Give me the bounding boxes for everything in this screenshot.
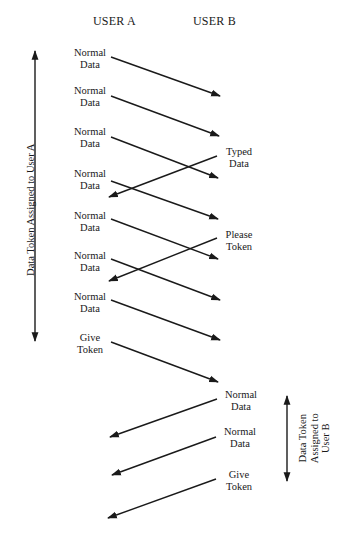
arrow-a-to-b-1 xyxy=(111,57,220,96)
arrow-b-to-a-5 xyxy=(108,479,216,518)
arrow-a-to-b-5 xyxy=(111,219,218,259)
user-a-message-5: NormalData xyxy=(60,210,120,233)
arrow-b-to-a-3 xyxy=(110,399,217,437)
user-b-message-2: NormalData xyxy=(210,426,270,449)
user-b-message-1: NormalData xyxy=(211,389,271,412)
arrow-b-to-a-2 xyxy=(109,238,217,281)
user-a-message-3: NormalData xyxy=(60,126,120,149)
arrow-a-to-b-6 xyxy=(111,259,220,300)
user-a-message-2: NormalData xyxy=(60,85,120,108)
user-b-typed-data: TypedData xyxy=(209,146,269,169)
arrow-a-to-b-4 xyxy=(111,181,218,219)
user-a-message-7: NormalData xyxy=(60,291,120,314)
message-arrows xyxy=(0,0,343,535)
user-a-span-label: Data Token Assigned to User A xyxy=(25,130,37,290)
arrow-b-to-a-4 xyxy=(112,437,216,475)
user-a-message-4: NormalData xyxy=(60,168,120,191)
user-a-give-token: GiveToken xyxy=(60,332,120,355)
user-a-message-1: NormalData xyxy=(60,47,120,70)
user-b-give-token: GiveToken xyxy=(209,469,269,492)
arrow-a-to-b-2 xyxy=(111,96,219,136)
user-b-span-label: Data Token Assigned to User B xyxy=(297,403,332,473)
user-b-please-token: PleaseToken xyxy=(209,229,269,252)
arrow-a-to-b-3 xyxy=(111,137,218,178)
user-a-message-6: NormalData xyxy=(60,250,120,273)
arrow-a-to-b-8 xyxy=(111,342,218,382)
arrow-b-to-a-1 xyxy=(109,156,217,197)
arrow-a-to-b-7 xyxy=(111,300,220,340)
